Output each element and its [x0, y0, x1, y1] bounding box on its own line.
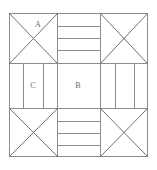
patch-label-a: A: [35, 20, 41, 29]
quilt-block-diagram: A C B: [0, 0, 157, 170]
quilt-block-svg: A C B: [0, 0, 157, 170]
cell-middle-center-plain: B: [75, 81, 80, 90]
patch-label-c: C: [30, 81, 35, 90]
patch-label-b: B: [75, 81, 80, 90]
